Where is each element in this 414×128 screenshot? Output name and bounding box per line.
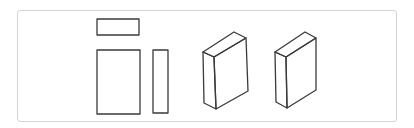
- front-view-rectangle: [97, 50, 140, 114]
- isometric-block-1: [203, 32, 248, 109]
- side-view-rectangle: [153, 50, 168, 113]
- block-1-top-face: [203, 32, 246, 57]
- block-1-front-face: [214, 38, 248, 109]
- block-drawings: [0, 0, 414, 128]
- top-view-rectangle: [97, 19, 139, 35]
- isometric-block-2: [275, 32, 316, 108]
- block-2-left-face: [275, 52, 287, 108]
- block-2-top-face: [275, 32, 316, 57]
- block-2-front-face: [286, 38, 316, 108]
